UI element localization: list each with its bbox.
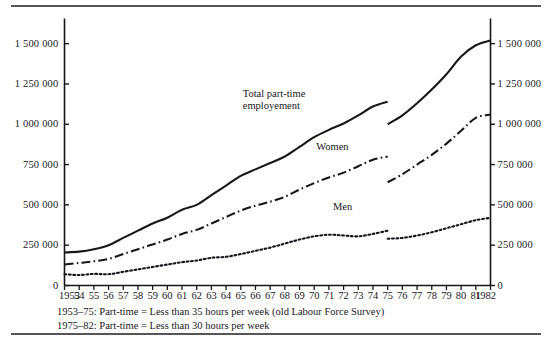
footnotes: 1953–75: Part-time = Less than 35 hours … xyxy=(57,305,384,333)
x-tick-label: 63 xyxy=(206,291,217,302)
series-line-total-old xyxy=(65,102,388,253)
x-tick-label: 67 xyxy=(265,291,276,302)
series-label-total-line2: employement xyxy=(243,100,300,111)
x-tick-label: 76 xyxy=(397,291,408,302)
x-tick-label: 56 xyxy=(103,291,114,302)
x-tick-label: 62 xyxy=(191,291,202,302)
y-tick-label-right: 1 250 000 xyxy=(498,79,542,90)
series-label-total: Total part-time employement xyxy=(243,88,363,112)
chart-figure: 0250 000500 000750 0001 000 0001 250 000… xyxy=(0,0,552,345)
y-tick-label-left: 1 500 000 xyxy=(15,38,59,49)
y-tick-label-left: 0 xyxy=(53,280,58,291)
x-tick-label: 69 xyxy=(294,291,305,302)
y-tick-label-left: 1 000 000 xyxy=(15,119,59,130)
x-tick-label: 80 xyxy=(456,291,467,302)
series-label-total-line1: Total part-time xyxy=(243,88,306,99)
x-tick-label: 68 xyxy=(280,291,291,302)
x-tick-label: 78 xyxy=(426,291,437,302)
x-tick-label: 58 xyxy=(133,291,144,302)
footnote-line-1: 1953–75: Part-time = Less than 35 hours … xyxy=(57,305,384,319)
series-line-total-new xyxy=(388,40,491,124)
series-line-men-new xyxy=(388,218,491,239)
x-tick-label: 75 xyxy=(382,291,393,302)
x-tick-label: 79 xyxy=(441,291,452,302)
x-tick-label: 59 xyxy=(147,291,158,302)
x-tick-label: 77 xyxy=(412,291,423,302)
y-tick-label-right: 1 500 000 xyxy=(498,38,542,49)
x-tick-label: 73 xyxy=(353,291,364,302)
series-label-women: Women xyxy=(316,141,348,153)
y-tick-label-right: 0 xyxy=(498,280,503,291)
x-tick-label: 64 xyxy=(221,291,232,302)
x-tick-label: 70 xyxy=(309,291,320,302)
x-tick-label: 65 xyxy=(236,291,247,302)
y-tick-label-right: 250 000 xyxy=(498,240,534,251)
y-tick-label-left: 500 000 xyxy=(23,200,59,211)
series-line-men-old xyxy=(65,231,388,275)
y-tick-label-right: 1 000 000 xyxy=(498,119,542,130)
y-tick-label-right: 500 000 xyxy=(498,200,534,211)
y-tick-label-left: 250 000 xyxy=(23,240,59,251)
x-tick-label: 72 xyxy=(338,291,349,302)
x-tick-label: 1982 xyxy=(475,291,496,302)
y-tick-label-left: 1 250 000 xyxy=(15,79,59,90)
x-tick-label: 74 xyxy=(368,291,379,302)
x-tick-label: 66 xyxy=(250,291,261,302)
x-tick-label: 61 xyxy=(177,291,188,302)
x-tick-label: 55 xyxy=(89,291,100,302)
x-tick-label: 60 xyxy=(162,291,173,302)
y-tick-label-right: 750 000 xyxy=(498,159,534,170)
y-tick-label-left: 750 000 xyxy=(23,159,59,170)
series-label-men: Men xyxy=(333,201,352,213)
x-tick-label: 71 xyxy=(324,291,335,302)
x-tick-label: 54 xyxy=(74,291,85,302)
x-tick-label: 57 xyxy=(118,291,129,302)
footnote-line-2: 1975–82: Part-time = Less than 30 hours … xyxy=(57,319,384,333)
series-line-women-new xyxy=(388,115,491,183)
